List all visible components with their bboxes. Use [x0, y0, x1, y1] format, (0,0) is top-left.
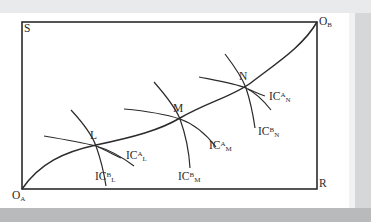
figure-root: S OB OA R L M N ICAL ICBL ICAM ICBM ICAN… [0, 0, 371, 222]
corner-label-s: S [24, 23, 30, 35]
curve-label-ic-l-a: ICAL [126, 150, 147, 162]
point-label-l: L [90, 130, 97, 142]
corner-label-origin-b: OB [319, 16, 332, 28]
corner-label-r: R [319, 178, 327, 190]
indifference-curve-m-b [154, 82, 190, 168]
edgeworth-box-canvas [0, 0, 371, 222]
indifference-curve-l-a [44, 136, 134, 166]
edgeworth-box-frame [22, 22, 317, 189]
indifference-curve-m-a [124, 109, 216, 147]
curve-label-ic-m-b: ICBM [178, 171, 200, 183]
curve-label-ic-l-b: ICBL [95, 171, 115, 183]
curve-label-ic-n-b: ICBN [258, 126, 279, 138]
contract-curve [22, 22, 317, 189]
point-label-n: N [239, 71, 247, 83]
curve-label-ic-m-a: ICAM [209, 140, 232, 152]
point-label-m: M [173, 103, 183, 115]
indifference-curve-n-a [199, 77, 271, 110]
leader-line-ic-l-a [98, 147, 121, 158]
corner-label-origin-a: OA [12, 190, 25, 202]
curve-label-ic-n-a: ICAN [269, 91, 291, 103]
